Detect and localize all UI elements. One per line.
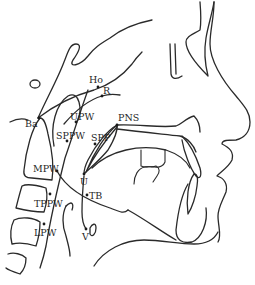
- label-tb: TB: [89, 190, 102, 201]
- soft-tissue-profile: [210, 2, 250, 242]
- landmark-point-ho: [97, 86, 100, 89]
- label-v: V: [81, 231, 89, 242]
- landmark-point-ba: [38, 117, 41, 120]
- vertebra-c5: [6, 253, 26, 274]
- hyoid: [90, 224, 96, 235]
- label-upw: UPW: [70, 111, 94, 122]
- label-lpw: LPW: [34, 227, 57, 238]
- label-pns: PNS: [118, 112, 139, 123]
- upper-molar: [141, 150, 165, 167]
- label-r: R: [103, 85, 111, 96]
- lower-incisor: [187, 174, 197, 214]
- orbit-lines: [170, 44, 182, 78]
- label-sppw: SPPW: [56, 130, 85, 141]
- label-ba: Ba: [25, 118, 38, 129]
- label-tppw: TPPW: [34, 198, 63, 209]
- cephalometric-diagram: Ho R Ba UPW PNS SPPW SPP MPW U TB TPPW L…: [0, 0, 255, 285]
- cranial-base-curve: [38, 20, 152, 118]
- label-spp: SPP: [91, 132, 111, 143]
- landmark-point-lpw: [43, 223, 46, 226]
- tongue-underside: [128, 210, 176, 240]
- epiglottis-tip: [66, 203, 73, 210]
- landmark-point-tppw: [49, 193, 52, 196]
- epiglottis: [63, 206, 70, 256]
- landmark-point-tb: [86, 194, 89, 197]
- landmark-point-spp: [94, 143, 97, 146]
- label-u: U: [80, 176, 88, 187]
- ear-rod-circle: [30, 80, 40, 88]
- label-ho: Ho: [89, 74, 103, 85]
- landmark-point-pns: [116, 124, 119, 127]
- label-mpw: MPW: [33, 163, 59, 174]
- mandible-symphysis: [176, 184, 206, 243]
- landmark-point-v: [85, 228, 88, 231]
- landmark-point-u: [83, 173, 86, 176]
- lower-molar: [134, 166, 159, 184]
- upper-incisor: [182, 136, 201, 178]
